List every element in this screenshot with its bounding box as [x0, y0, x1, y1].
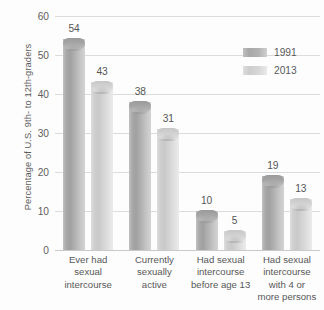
y-axis-tick-label: 50 — [3, 50, 49, 61]
bar-2013-cat3 — [290, 199, 312, 250]
bar-body — [262, 176, 284, 250]
bar-value-label: 19 — [267, 160, 278, 171]
bar-value-label: 5 — [232, 215, 238, 226]
bar-value-label: 31 — [163, 113, 174, 124]
bar-body — [290, 199, 312, 250]
bar-chart: Percentage of U.S. 9th- to 12th-graders … — [0, 0, 324, 310]
bar-2013-cat0 — [91, 82, 113, 250]
category-label: Ever had sexual intercourse — [55, 254, 121, 291]
chart-legend: 1991 2013 — [243, 46, 319, 80]
category-label: Had sexual intercourse before age 13 — [188, 254, 254, 291]
bar-value-label: 43 — [96, 66, 107, 77]
bar-1991-cat0 — [63, 39, 85, 250]
bar-value-label: 10 — [201, 195, 212, 206]
legend-label-1991: 1991 — [274, 47, 297, 58]
bar-body — [224, 231, 246, 251]
bar-1991-cat2 — [196, 211, 218, 250]
gridline — [55, 250, 320, 251]
legend-swatch-1991 — [243, 48, 267, 57]
bar-2013-cat2 — [224, 231, 246, 251]
bar-1991-cat1 — [129, 102, 151, 250]
category-axis: Ever had sexual intercourseCurrently sex… — [55, 254, 320, 310]
bar-body — [129, 102, 151, 250]
bar-2013-cat1 — [157, 129, 179, 250]
bar-body — [157, 129, 179, 250]
y-axis-tick-label: 30 — [3, 128, 49, 139]
category-label: Currently sexually active — [121, 254, 187, 291]
y-axis-tick-label: 20 — [3, 167, 49, 178]
bar-value-label: 54 — [68, 23, 79, 34]
y-axis-tick-label: 40 — [3, 89, 49, 100]
category-label: Had sexual intercourse with 4 or more pe… — [254, 254, 320, 304]
legend-item-1991: 1991 — [243, 46, 297, 58]
y-axis-tick-label: 0 — [3, 245, 49, 256]
bar-1991-cat3 — [262, 176, 284, 250]
legend-item-2013: 2013 — [243, 64, 297, 76]
y-axis-tick-label: 10 — [3, 206, 49, 217]
y-axis-tick-label: 60 — [3, 11, 49, 22]
bar-body — [196, 211, 218, 250]
legend-swatch-2013 — [243, 66, 267, 75]
gridline — [55, 16, 320, 17]
legend-label-2013: 2013 — [274, 65, 297, 76]
bar-body — [91, 82, 113, 250]
bar-value-label: 38 — [135, 86, 146, 97]
bar-value-label: 13 — [295, 183, 306, 194]
bar-body — [63, 39, 85, 250]
